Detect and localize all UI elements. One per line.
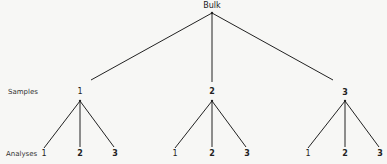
analysis-s2-2: 2 (209, 149, 215, 159)
node-sample3 (344, 100, 346, 102)
node-sample2 (211, 100, 213, 102)
tree-lines (0, 0, 387, 164)
sample-label-1: 1 (77, 87, 82, 97)
analysis-s1-2: 2 (77, 149, 83, 159)
edge-s2-a3 (212, 101, 246, 147)
analysis-s1-3: 3 (112, 149, 118, 159)
analysis-s2-1: 1 (172, 149, 177, 159)
row-label-analyses: Analyses (6, 149, 37, 159)
analysis-s2-3: 3 (244, 149, 250, 159)
edge-s1-a3 (80, 101, 114, 147)
analysis-s3-2: 2 (342, 149, 348, 159)
root-label-bulk: Bulk (203, 1, 220, 11)
analysis-s1-1: 1 (41, 149, 46, 159)
row-label-samples: Samples (8, 87, 38, 97)
edge-s3-a1 (308, 101, 345, 148)
edge-s3-a3 (345, 101, 379, 147)
edge-bulk-sample3 (212, 13, 333, 80)
edge-s1-a1 (44, 101, 80, 148)
node-bulk (211, 12, 213, 14)
sample-label-3: 3 (342, 88, 348, 98)
analysis-s3-1: 1 (305, 149, 310, 159)
sample-label-2: 2 (209, 87, 215, 97)
edge-s2-a1 (175, 101, 212, 148)
edge-bulk-sample1 (91, 13, 212, 80)
node-sample1 (79, 100, 81, 102)
analysis-s3-3: 3 (377, 149, 383, 159)
